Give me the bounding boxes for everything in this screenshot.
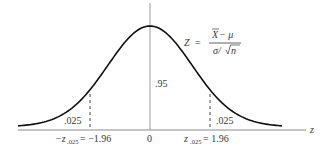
svg-text:.025: .025 xyxy=(190,138,201,145)
formula-numerator: X − μ xyxy=(211,29,233,40)
formula-z: Z xyxy=(184,37,190,48)
left-tail-label: .025 xyxy=(64,115,82,126)
svg-text:n: n xyxy=(231,45,236,56)
normal-curve-diagram: Z = X − μ σ/ n .95 .025 .025 z −z .025 =… xyxy=(0,0,326,154)
left-critical-value-label: −z .025 = −1.96 xyxy=(55,133,111,145)
svg-text:= −1.96: = −1.96 xyxy=(80,133,111,144)
svg-text:σ/: σ/ xyxy=(213,45,222,56)
center-area-label: .95 xyxy=(155,78,168,89)
svg-text:.025: .025 xyxy=(67,138,78,145)
svg-text:X: X xyxy=(211,29,219,40)
center-tick-label: 0 xyxy=(147,133,152,144)
svg-text:− μ: − μ xyxy=(219,29,233,40)
svg-text:z: z xyxy=(183,133,188,144)
right-tail-label: .025 xyxy=(216,115,234,126)
formula-equals: = xyxy=(195,37,201,48)
right-critical-value-label: z .025 = 1.96 xyxy=(183,133,229,145)
svg-text:= 1.96: = 1.96 xyxy=(203,133,229,144)
axis-label-z: z xyxy=(309,124,314,135)
svg-text:−z: −z xyxy=(55,133,66,144)
formula-denominator: σ/ n xyxy=(213,45,240,56)
